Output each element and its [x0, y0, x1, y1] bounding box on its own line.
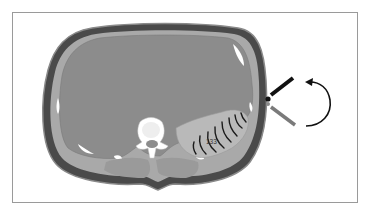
probe-pivot	[265, 96, 270, 101]
probe-active	[271, 78, 293, 95]
rotation-arrow	[306, 82, 330, 126]
arrowhead-icon	[305, 78, 313, 86]
vertebral-body-texture	[142, 122, 160, 138]
spinal-canal	[146, 140, 158, 148]
paraspinal-muscle-right	[156, 158, 199, 178]
spleen-number-label: 133	[206, 138, 217, 145]
probe-ghost-pivot	[266, 102, 270, 106]
probe-ghost	[271, 107, 295, 125]
abdomen-cross-section: 133	[0, 0, 371, 213]
